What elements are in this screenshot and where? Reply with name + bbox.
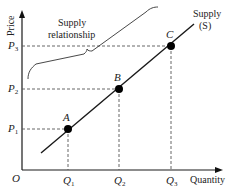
annotation-line2: relationship	[48, 29, 95, 40]
point-a-label: A	[62, 111, 70, 123]
p3-label: P3	[7, 39, 19, 53]
origin-label: O	[12, 172, 20, 184]
q1-label: Q1	[63, 174, 75, 188]
point-c-label: C	[166, 28, 174, 40]
annotation-line1: Supply	[58, 17, 86, 28]
point-a	[64, 125, 72, 133]
q2-label: Q2	[114, 174, 126, 188]
point-c	[167, 42, 175, 50]
q3-label: Q3	[166, 174, 178, 188]
p1-label: P1	[7, 122, 19, 136]
supply-label-line2: (S)	[199, 20, 211, 32]
p2-label: P2	[7, 82, 19, 96]
point-b-label: B	[114, 71, 121, 83]
supply-diagram: A B C P1 P2 P3 Q1 Q2 Q3 O Price Quantity…	[0, 0, 231, 189]
point-b	[115, 85, 123, 93]
supply-relationship-brace	[28, 7, 158, 79]
supply-label-line1: Supply	[193, 8, 221, 19]
y-axis-title: Price	[5, 15, 16, 36]
x-axis-title: Quantity	[190, 174, 225, 185]
